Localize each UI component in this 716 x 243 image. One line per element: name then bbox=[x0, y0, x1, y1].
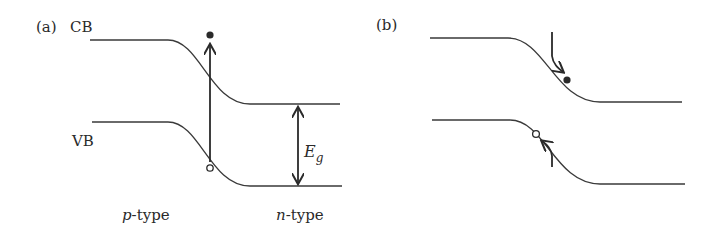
bandgap-label: Eg bbox=[303, 142, 324, 165]
hole-drift-arrow bbox=[542, 141, 552, 167]
cb-label: CB bbox=[70, 18, 93, 36]
conduction-band-line-b bbox=[430, 38, 682, 102]
n-type-label: n-type bbox=[276, 206, 324, 224]
valence-band-line-b bbox=[432, 120, 685, 184]
panel-b: (b) bbox=[376, 16, 685, 184]
p-type-label: p-type bbox=[122, 206, 170, 224]
panel-a-label: (a) bbox=[36, 18, 57, 36]
hole-circle-b bbox=[533, 131, 540, 138]
conduction-band-line-a bbox=[90, 40, 340, 104]
panel-a: (a) CB VB Eg p-type n-type bbox=[36, 18, 342, 224]
electron-dot bbox=[206, 31, 213, 38]
panel-b-label: (b) bbox=[376, 16, 397, 34]
hole-circle bbox=[207, 165, 213, 171]
electron-dot-b bbox=[563, 76, 570, 83]
band-diagram: (a) CB VB Eg p-type n-type (b) bbox=[0, 0, 716, 243]
electron-drift-arrow bbox=[552, 32, 563, 72]
vb-label: VB bbox=[71, 132, 94, 150]
